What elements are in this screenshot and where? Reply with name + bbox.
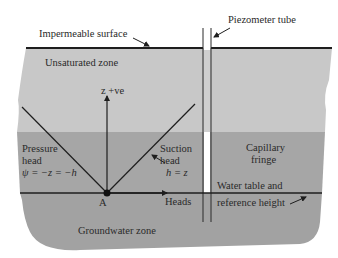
groundwater-head-diagram: Impermeable surface Piezometer tube Unsa… bbox=[0, 0, 338, 258]
capillary-fringe-label-1: Capillary bbox=[246, 142, 285, 154]
piezometer-tube-interior bbox=[204, 132, 210, 193]
piezometer-tube-label: Piezometer tube bbox=[228, 14, 296, 26]
heads-axis-label: Heads bbox=[165, 196, 191, 208]
piezometer-tube-gap-top bbox=[204, 44, 210, 132]
water-table-label-1: Water table and bbox=[217, 180, 283, 192]
pressure-head-label-2: head bbox=[22, 155, 42, 167]
capillary-fringe-label-2: fringe bbox=[251, 154, 276, 166]
suction-head-equation: h = z bbox=[166, 167, 188, 179]
unsaturated-zone-label: Unsaturated zone bbox=[45, 57, 118, 69]
point-a-label: A bbox=[99, 197, 107, 209]
water-table-label-2: reference height bbox=[217, 197, 285, 209]
impermeable-surface-label: Impermeable surface bbox=[39, 28, 127, 40]
suction-head-label-2: head bbox=[160, 155, 180, 167]
point-a-marker bbox=[104, 190, 111, 197]
groundwater-zone-label: Groundwater zone bbox=[78, 225, 156, 237]
impermeable-surface-pointer bbox=[133, 38, 149, 46]
suction-head-label-1: Suction bbox=[160, 143, 192, 155]
pressure-head-label-1: Pressure bbox=[22, 143, 58, 155]
z-axis-label: z +ve bbox=[101, 85, 124, 97]
pressure-head-equation: ψ = −z = −h bbox=[22, 167, 77, 179]
piezometer-tube-pointer bbox=[214, 28, 230, 37]
